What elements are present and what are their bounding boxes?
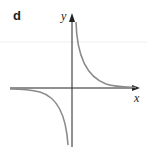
curve-branch-q1: [76, 22, 136, 88]
curve-branch-q3: [10, 89, 68, 145]
hyperbola-plot: [0, 0, 147, 147]
y-axis-arrow-icon: [69, 13, 75, 22]
panel-label: d: [13, 9, 21, 22]
x-axis-label: x: [134, 92, 139, 104]
y-axis-label: y: [61, 10, 66, 22]
